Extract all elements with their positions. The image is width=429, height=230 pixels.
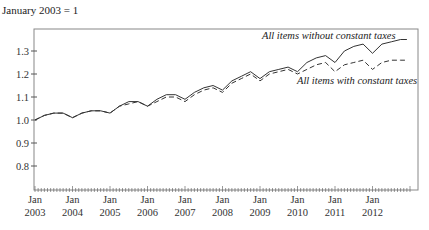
x-tick-label: Jan [253, 194, 268, 205]
series-line-with-constant-taxes [35, 60, 407, 120]
y-tick-label: 0.8 [16, 161, 29, 172]
y-tick-label: 1.3 [16, 46, 29, 57]
y-tick-label: 1.0 [16, 115, 29, 126]
x-tick-label: 2005 [100, 207, 121, 218]
y-tick-label: 1.2 [16, 69, 29, 80]
x-tick-label: Jan [66, 194, 81, 205]
x-tick-label: 2007 [175, 207, 196, 218]
x-tick-label: Jan [291, 194, 306, 205]
x-tick-label: 2011 [325, 207, 346, 218]
x-tick-label: Jan [328, 194, 343, 205]
x-tick-label: Jan [178, 194, 193, 205]
x-tick-label: 2012 [362, 207, 383, 218]
series-label-with-constant-taxes: All items with constant taxes [296, 75, 417, 86]
x-tick-label: 2010 [287, 207, 308, 218]
x-tick-label: Jan [28, 194, 43, 205]
x-tick-label: Jan [103, 194, 118, 205]
x-tick-label: 2003 [25, 207, 46, 218]
plot-frame [34, 29, 418, 190]
x-tick-label: Jan [216, 194, 231, 205]
x-tick-label: Jan [366, 194, 381, 205]
x-tick-label: 2006 [137, 207, 158, 218]
y-tick-label: 0.9 [16, 138, 29, 149]
x-tick-label: 2008 [212, 207, 233, 218]
y-tick-label: 1.1 [16, 92, 29, 103]
x-tick-label: 2009 [250, 207, 271, 218]
series-label-without-constant-taxes: All items without constant taxes [261, 30, 396, 41]
line-chart: 0.80.91.01.11.21.3 Jan2003Jan2004Jan2005… [0, 0, 429, 230]
x-tick-label: Jan [141, 194, 156, 205]
x-axis: Jan2003Jan2004Jan2005Jan2006Jan2007Jan20… [25, 186, 411, 218]
x-tick-label: 2004 [62, 207, 84, 218]
